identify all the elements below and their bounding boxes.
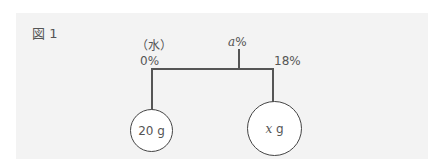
- right-unit: g: [272, 122, 283, 136]
- figure-panel: 図 1 （水） 0% a% 18% 20 g x g: [16, 13, 428, 159]
- water-label: （水）: [136, 39, 172, 53]
- left-vertical-line: [151, 68, 153, 112]
- left-percent: 0%: [140, 54, 159, 68]
- left-weight: 20 g: [138, 124, 165, 138]
- right-vertical-line: [272, 68, 274, 103]
- right-weight-circle: x g: [247, 101, 302, 156]
- figure-label: 図 1: [32, 27, 57, 41]
- right-percent: 18%: [274, 54, 301, 68]
- middle-vertical-line: [238, 49, 240, 69]
- right-weight: x g: [265, 122, 283, 136]
- middle-percent-sign: %: [235, 35, 246, 49]
- left-weight-circle: 20 g: [130, 109, 173, 152]
- horizontal-beam: [151, 68, 273, 70]
- middle-percent-label: a%: [228, 35, 247, 49]
